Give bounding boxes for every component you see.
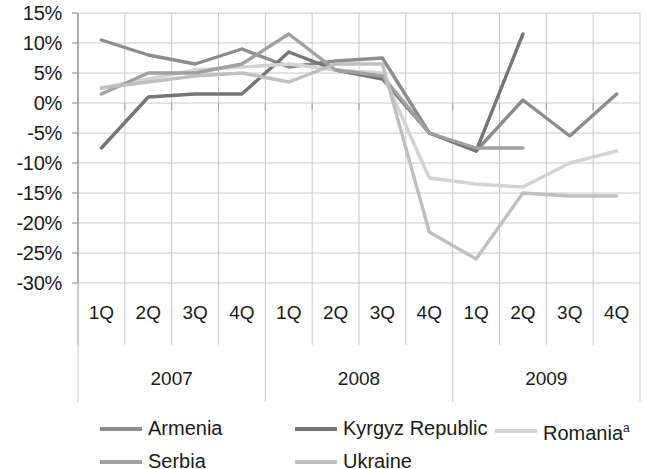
y-axis-label-group: 15%10%5%0%-5%-10%-15%-20%-25%-30% xyxy=(0,0,70,300)
y-axis-tick-label: 10% xyxy=(0,33,62,53)
x-axis-quarter-label: 2Q xyxy=(500,303,547,322)
legend-label: Romaniaa xyxy=(543,418,630,444)
y-axis-tick-label: -25% xyxy=(0,243,62,263)
y-axis-tick-label: -20% xyxy=(0,213,62,233)
legend-item-kyrgyz-republic[interactable]: Kyrgyz Republic xyxy=(295,418,488,439)
x-axis-quarter-label: 4Q xyxy=(593,303,640,322)
chart-container: 15%10%5%0%-5%-10%-15%-20%-25%-30% 1Q2Q3Q… xyxy=(0,0,647,469)
y-axis-tick-label: 0% xyxy=(0,93,62,113)
legend-footnote-marker: a xyxy=(623,421,630,435)
x-axis-quarter-label: 2Q xyxy=(312,303,359,322)
x-axis-quarter-label: 3Q xyxy=(359,303,406,322)
y-axis-tick-label: -5% xyxy=(0,123,62,143)
legend-item-serbia[interactable]: Serbia xyxy=(100,451,206,469)
x-axis-quarter-label: 3Q xyxy=(546,303,593,322)
legend-label: Kyrgyz Republic xyxy=(343,418,488,439)
x-axis-year-label: 2007 xyxy=(78,369,265,388)
legend-label: Ukraine xyxy=(343,451,412,469)
legend-color-swatch xyxy=(295,427,337,431)
line-chart-svg xyxy=(0,0,647,469)
legend-color-swatch xyxy=(495,429,537,433)
x-axis-year-label: 2008 xyxy=(265,369,452,388)
legend-item-romania[interactable]: Romaniaa xyxy=(495,418,630,444)
x-axis-quarter-label: 2Q xyxy=(125,303,172,322)
legend-item-armenia[interactable]: Armenia xyxy=(100,418,222,439)
y-axis-tick-label: -10% xyxy=(0,153,62,173)
legend-label: Armenia xyxy=(148,418,222,439)
x-axis-year-label: 2009 xyxy=(453,369,640,388)
legend-color-swatch xyxy=(100,460,142,464)
legend-label: Serbia xyxy=(148,451,206,469)
x-axis-quarter-label: 1Q xyxy=(78,303,125,322)
x-axis-quarter-label: 3Q xyxy=(172,303,219,322)
y-axis-tick-label: -30% xyxy=(0,273,62,293)
x-axis-quarter-label: 4Q xyxy=(406,303,453,322)
legend-color-swatch xyxy=(295,460,337,464)
legend-item-ukraine[interactable]: Ukraine xyxy=(295,451,412,469)
x-axis-quarter-label: 1Q xyxy=(265,303,312,322)
y-axis-tick-label: 5% xyxy=(0,63,62,83)
x-axis-quarter-label: 4Q xyxy=(219,303,266,322)
x-axis-quarter-label: 1Q xyxy=(453,303,500,322)
y-axis-tick-label: 15% xyxy=(0,3,62,23)
y-axis-tick-label: -15% xyxy=(0,183,62,203)
legend-color-swatch xyxy=(100,427,142,431)
